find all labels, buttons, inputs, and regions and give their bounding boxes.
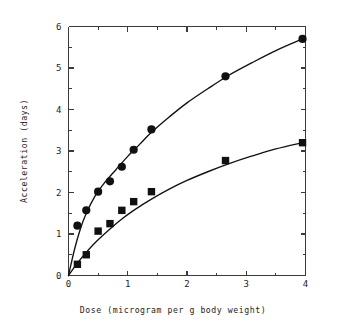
data-point-circle: [298, 35, 306, 43]
figure-background: [0, 0, 346, 328]
data-point-square: [83, 251, 90, 258]
data-point-circle: [94, 188, 102, 196]
chart-figure: 01234 0123456 Dose (microgram per g body…: [0, 0, 346, 328]
y-tick-label: 4: [56, 105, 61, 115]
data-point-square: [148, 188, 155, 195]
data-point-square: [118, 207, 125, 214]
y-tick-label: 3: [56, 146, 61, 156]
data-point-circle: [73, 222, 81, 230]
data-point-circle: [106, 177, 114, 185]
data-point-square: [222, 157, 229, 164]
y-axis-title: Acceleration (days): [19, 99, 29, 203]
data-point-circle: [118, 163, 126, 171]
x-tick-label: 4: [303, 279, 308, 289]
x-axis-title: Dose (microgram per g body weight): [80, 305, 266, 315]
x-tick-label: 2: [184, 279, 189, 289]
y-tick-label: 0: [56, 271, 61, 281]
data-point-circle: [130, 146, 138, 154]
data-point-circle: [147, 125, 155, 133]
x-tick-label: 0: [66, 279, 71, 289]
y-tick-label: 6: [56, 22, 61, 32]
data-point-square: [106, 220, 113, 227]
y-tick-label: 2: [56, 188, 61, 198]
x-tick-label: 1: [125, 279, 130, 289]
y-tick-label: 1: [56, 229, 61, 239]
dose-response-scatter-plot: 01234 0123456 Dose (microgram per g body…: [0, 0, 346, 328]
data-point-circle: [221, 72, 229, 80]
data-point-square: [94, 227, 101, 234]
y-tick-label: 5: [56, 63, 61, 73]
data-point-circle: [82, 206, 90, 214]
data-point-square: [74, 261, 81, 268]
data-point-square: [130, 198, 137, 205]
data-point-square: [299, 139, 306, 146]
x-tick-label: 3: [244, 279, 249, 289]
